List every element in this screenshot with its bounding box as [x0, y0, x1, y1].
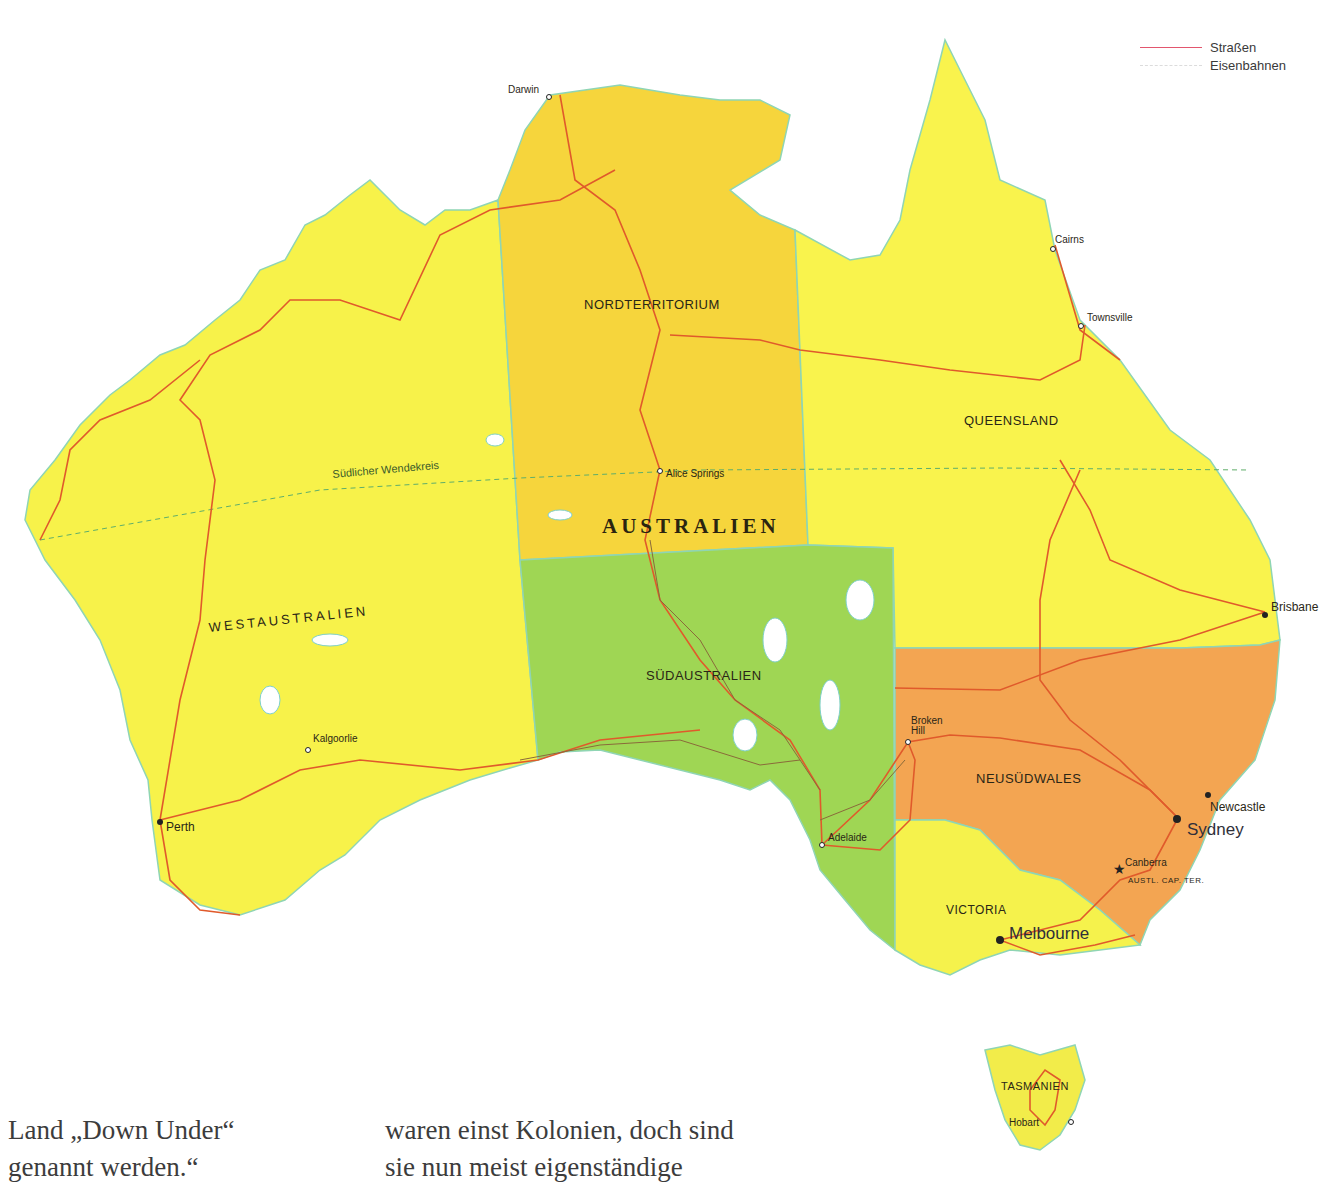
label-alice-springs: Alice Springs — [666, 468, 724, 479]
body-text-right-line1: waren einst Kolonien, doch sind — [385, 1115, 734, 1146]
label-tasmanien: TASMANIEN — [1001, 1080, 1069, 1092]
label-canberra: Canberra — [1125, 857, 1167, 868]
label-australien: AUSTRALIEN — [602, 514, 780, 539]
label-act: AUSTL. CAP. TER. — [1128, 876, 1204, 885]
legend-item-railways: Eisenbahnen — [1140, 56, 1286, 74]
railways-swatch-icon — [1140, 65, 1202, 66]
body-text-right-line2: sie nun meist eigenständige — [385, 1152, 683, 1183]
label-neusuedwales: NEUSÜDWALES — [976, 771, 1081, 786]
region-northern-territory — [498, 85, 808, 560]
roads-swatch-icon — [1140, 47, 1202, 48]
label-kalgoorlie: Kalgoorlie — [313, 733, 357, 744]
label-queensland: QUEENSLAND — [964, 413, 1059, 428]
label-perth: Perth — [166, 820, 195, 834]
label-hobart: Hobart — [1009, 1117, 1039, 1128]
legend-label-railways: Eisenbahnen — [1210, 58, 1286, 73]
label-adelaide: Adelaide — [828, 832, 867, 843]
map-legend: Straßen Eisenbahnen — [1140, 38, 1286, 74]
label-sydney: Sydney — [1187, 820, 1244, 840]
region-tasmania — [985, 1045, 1085, 1150]
label-melbourne: Melbourne — [1009, 924, 1089, 944]
region-western-australia — [25, 180, 538, 915]
label-nordterritorium: NORDTERRITORIUM — [584, 297, 720, 312]
label-townsville: Townsville — [1087, 312, 1133, 323]
label-brisbane: Brisbane — [1271, 600, 1318, 614]
label-broken-hill: Broken Hill — [911, 716, 951, 736]
label-victoria: VICTORIA — [946, 903, 1006, 917]
body-text-left-line2: genannt werden.“ — [8, 1152, 198, 1183]
label-suedaustralien: SÜDAUSTRALIEN — [646, 668, 762, 683]
body-text-left-line1: Land „Down Under“ — [8, 1115, 234, 1146]
label-newcastle: Newcastle — [1210, 800, 1265, 814]
legend-label-roads: Straßen — [1210, 40, 1256, 55]
label-darwin: Darwin — [508, 84, 539, 95]
label-cairns: Cairns — [1055, 234, 1084, 245]
legend-item-roads: Straßen — [1140, 38, 1286, 56]
